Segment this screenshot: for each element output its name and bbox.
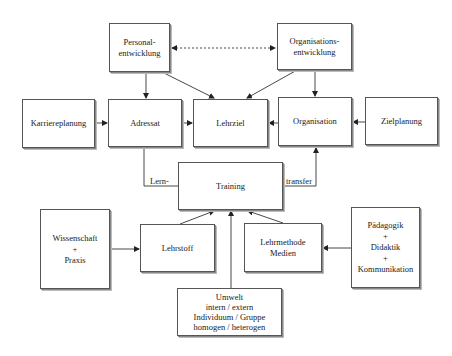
node-text: Kommunikation	[358, 264, 414, 275]
node-text: Organisation	[293, 116, 337, 127]
node-text: +	[73, 244, 78, 255]
node-text: Lehrmethode	[260, 237, 305, 248]
node-text: Praxis	[64, 255, 85, 266]
edge-organisations-lehrziel	[247, 70, 297, 98]
node-lehrstoff: Lehrstoff	[140, 224, 215, 272]
edge-label-transfer: transfer	[286, 176, 312, 186]
node-text: entwicklung	[118, 48, 160, 59]
node-text: Training	[216, 181, 245, 192]
edge-lehrstoff-training	[180, 211, 214, 224]
node-paedagogik: Pädagogik + Didaktik + Kommunikation	[351, 207, 420, 288]
node-lehrziel: Lehrziel	[193, 99, 268, 147]
node-text: Personal-	[123, 37, 155, 48]
node-training: Training	[178, 162, 283, 210]
edge-label-lern: Lern-	[150, 176, 169, 186]
node-karriereplanung: Karriereplanung	[22, 99, 95, 148]
node-text: Individuum / Gruppe	[194, 312, 266, 322]
node-text: entwicklung	[293, 47, 335, 58]
node-text: intern / extern	[206, 302, 254, 312]
node-text: Adressat	[130, 118, 160, 129]
node-adressat: Adressat	[108, 99, 182, 147]
diagram-canvas: Personal- entwicklung Organisations- ent…	[0, 0, 452, 356]
node-text: homogen / heterogen	[194, 322, 266, 332]
node-organisation: Organisation	[278, 97, 352, 146]
node-lehrmethode: Lehrmethode Medien	[244, 223, 322, 272]
node-text: Karriereplanung	[31, 118, 87, 129]
node-text: Lehrstoff	[162, 243, 193, 254]
node-text: Didaktik	[371, 242, 401, 253]
node-text: Lehrziel	[216, 118, 244, 129]
node-umwelt: Umwelt intern / extern Individuum / Grup…	[177, 288, 282, 336]
node-text: Wissenschaft	[53, 233, 98, 244]
node-title: Umwelt	[216, 292, 243, 302]
node-zielplanung: Zielplanung	[365, 97, 438, 145]
node-text: +	[383, 231, 388, 242]
node-text: Organisations-	[290, 36, 340, 47]
node-text: Zielplanung	[381, 116, 422, 127]
node-organisationsentwicklung: Organisations- entwicklung	[277, 23, 352, 70]
edge-lehrmethode-training	[248, 211, 283, 223]
node-personalentwicklung: Personal- entwicklung	[109, 23, 170, 72]
edge-personal-lehrziel	[162, 72, 214, 98]
node-text: Medien	[270, 248, 296, 259]
node-text: +	[383, 253, 388, 264]
node-text: Pädagogik	[368, 220, 404, 231]
node-wissenschaft: Wissenschaft + Praxis	[40, 209, 110, 289]
